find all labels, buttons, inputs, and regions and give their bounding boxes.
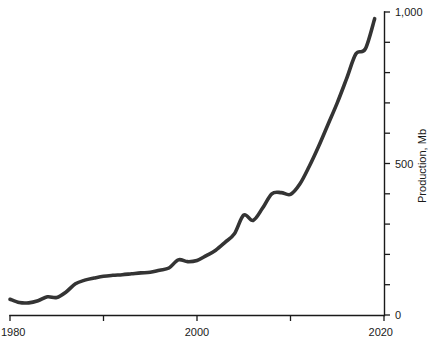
y-tick-label-1000: 1,000 <box>395 6 423 18</box>
y-axis-title: Production, Mb <box>416 129 428 203</box>
x-tick-label-2000: 2000 <box>185 326 209 338</box>
y-tick-label-500: 500 <box>395 158 413 170</box>
production-line-chart: 198020002020 05001,000 Production, Mb <box>0 0 442 343</box>
x-tick-label-1980: 1980 <box>1 326 25 338</box>
data-series-group <box>10 19 375 303</box>
x-axis: 198020002020 <box>1 315 393 338</box>
chart-canvas: 198020002020 05001,000 Production, Mb <box>0 0 442 343</box>
x-tick-label-2020: 2020 <box>369 326 393 338</box>
y-tick-label-0: 0 <box>395 309 401 321</box>
production-series-line <box>10 19 375 303</box>
x-axis-tick-labels: 198020002020 <box>1 326 393 338</box>
